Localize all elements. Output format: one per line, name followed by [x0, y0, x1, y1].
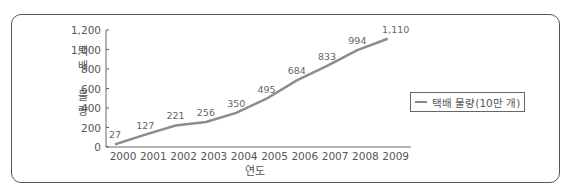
x-tick-label: 2006 [291, 150, 318, 162]
data-label: 1,110 [382, 24, 409, 35]
y-axis-title: 배 [78, 60, 88, 73]
data-label: 833 [318, 51, 336, 62]
data-label: 684 [288, 65, 306, 76]
data-label: 127 [136, 120, 154, 131]
data-label: 994 [348, 35, 366, 46]
data-label: 350 [227, 98, 245, 109]
x-axis-title: 연도 [245, 165, 265, 178]
data-label: 27 [109, 129, 121, 140]
x-tick-label: 2005 [261, 150, 288, 162]
legend: 택배 물량(10만 개) [410, 92, 525, 112]
x-tick-label: 2003 [201, 150, 228, 162]
x-tick-label: 2008 [352, 150, 379, 162]
y-tick-label: 200 [81, 122, 101, 134]
x-tick-label: 2001 [140, 150, 167, 162]
y-axis-title: 택 [78, 45, 88, 58]
x-tick-label: 2004 [231, 150, 258, 162]
data-label: 256 [197, 107, 215, 118]
y-tick-label: 1,200 [71, 24, 101, 36]
legend-line-swatch-icon [415, 101, 427, 103]
legend-label: 택배 물량(10만 개) [432, 95, 520, 110]
data-label: 495 [257, 84, 275, 95]
y-tick-label: 0 [94, 141, 101, 153]
series-line [115, 39, 388, 145]
x-tick-label: 2002 [170, 150, 197, 162]
x-tick-label: 2009 [382, 150, 409, 162]
y-axis-title: 물 [78, 90, 88, 103]
x-tick-label: 2007 [322, 150, 349, 162]
data-label: 221 [167, 110, 185, 121]
y-axis-title: 량 [78, 105, 88, 118]
x-tick-label: 2000 [110, 150, 137, 162]
